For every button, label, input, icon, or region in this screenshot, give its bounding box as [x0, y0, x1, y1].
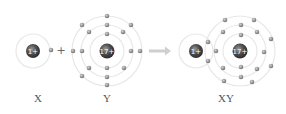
nucleus-label: 17+ — [233, 48, 248, 56]
reaction-arrow — [149, 47, 171, 56]
label-xy: XY — [218, 92, 234, 104]
nucleus-label: 1+ — [28, 48, 38, 56]
plus-sign: + — [56, 44, 65, 57]
compound-xy: 1+ 17+ — [179, 16, 275, 86]
label-y: Y — [103, 92, 111, 104]
atom-y: 17+ — [71, 14, 143, 88]
electron — [49, 48, 54, 53]
bonding-diagram: 1+ + 17+ 1+ 17 — [0, 0, 286, 114]
atom-x: 1+ — [16, 34, 53, 68]
nucleus-label: 17+ — [100, 48, 115, 56]
label-x: X — [34, 92, 42, 104]
nucleus-label: 1+ — [191, 48, 201, 56]
